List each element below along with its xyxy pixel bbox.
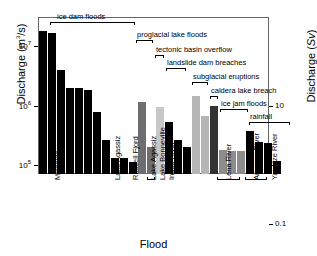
annotation-bracket (50, 22, 135, 25)
x-tick-label: Missoula (53, 150, 62, 180)
y-tick-label-right: 10 (275, 101, 284, 110)
bar (102, 140, 110, 174)
x-tick-label: Yangtze River (270, 133, 279, 180)
x-tick-label: Lake Agassiz (113, 136, 122, 180)
x-group-bracket (217, 177, 240, 180)
annotation-bracket (166, 68, 186, 71)
y-tick-left (34, 106, 38, 107)
bar (39, 31, 47, 174)
annotation-label: rainfall (250, 112, 272, 121)
annotation-bracket (155, 55, 164, 58)
y-tick-label-left: 107 (19, 40, 31, 51)
annotation-label: ice jam floods (221, 99, 267, 108)
bar (66, 88, 74, 174)
bar (93, 112, 101, 174)
x-group-bracket (147, 177, 155, 180)
x-tick-label: Lena River (224, 144, 233, 180)
annotation-bracket (192, 82, 208, 85)
bar (201, 116, 209, 174)
y-tick-left (34, 46, 38, 47)
bar (237, 151, 245, 174)
x-group-bracket (245, 177, 267, 180)
y-tick-label-left: 106 (19, 100, 31, 111)
x-tick-label: Indus River (167, 142, 176, 180)
y-tick-right (269, 224, 273, 225)
annotation-bracket (249, 122, 290, 125)
annotation-bracket (210, 96, 218, 99)
x-tick-label: Russell Fjord (131, 136, 140, 180)
annotation-label: ice dam floods (57, 12, 105, 21)
y-axis-right-title: Discharge (Sv) (305, 1, 317, 131)
bar (84, 90, 92, 174)
x-tick-label: Lake Agassiz (149, 136, 158, 180)
bar (183, 147, 191, 174)
bar (192, 96, 200, 174)
annotation-label: landslide dam breaches (167, 58, 246, 67)
y-tick-label-right: 0.1 (275, 219, 286, 228)
x-tick-label: Lake Bonneville (158, 127, 167, 180)
annotation-label: subglacial eruptions (193, 72, 259, 81)
annotation-label: tectonic basin overflow (156, 45, 232, 54)
annotation-label: caldera lake breach (211, 86, 276, 95)
annotation-bracket (220, 109, 248, 112)
y-tick-right (269, 106, 273, 107)
x-axis-title: Flood (38, 238, 269, 250)
annotation-bracket (136, 40, 153, 43)
bar (210, 106, 218, 174)
y-tick-label-left: 105 (19, 159, 31, 170)
annotation-label: proglacial lake floods (137, 30, 207, 39)
x-tick-label: Amazon River (252, 133, 261, 180)
figure: Discharge (m3/s) Discharge (Sv) Flood 10… (0, 0, 317, 256)
bar (75, 88, 83, 174)
y-tick-left (34, 165, 38, 166)
